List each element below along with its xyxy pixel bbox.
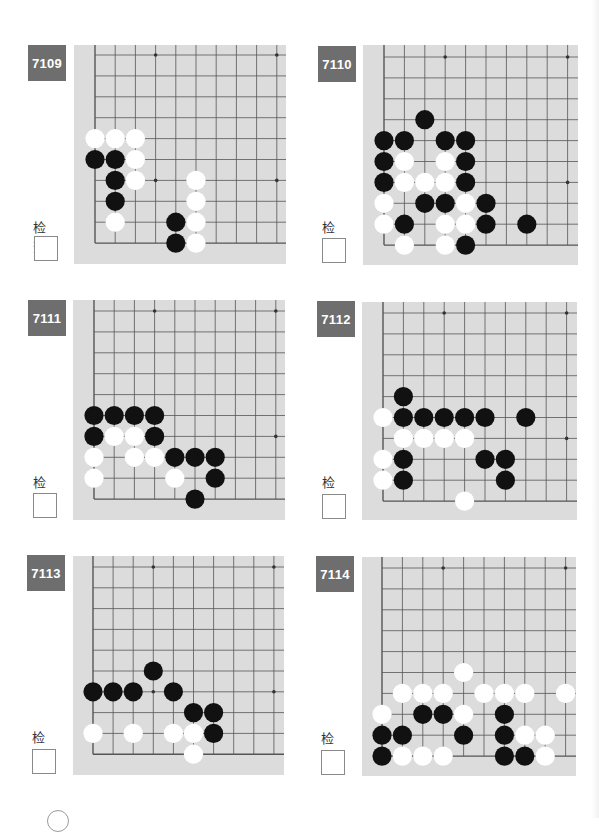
go-board[interactable] xyxy=(73,300,285,520)
white-stone[interactable] xyxy=(186,171,205,190)
black-stone[interactable] xyxy=(106,150,125,169)
black-stone[interactable] xyxy=(164,682,183,701)
white-stone[interactable] xyxy=(105,427,124,446)
white-stone[interactable] xyxy=(164,724,183,743)
black-stone[interactable] xyxy=(204,724,223,743)
white-stone[interactable] xyxy=(372,705,391,724)
check-box[interactable] xyxy=(33,493,57,518)
white-stone[interactable] xyxy=(395,236,414,255)
black-stone[interactable] xyxy=(83,682,102,701)
white-stone[interactable] xyxy=(515,726,534,745)
white-stone[interactable] xyxy=(393,747,412,766)
white-stone[interactable] xyxy=(454,663,473,682)
black-stone[interactable] xyxy=(414,408,433,427)
black-stone[interactable] xyxy=(434,705,453,724)
black-stone[interactable] xyxy=(124,682,143,701)
black-stone[interactable] xyxy=(393,726,412,745)
white-stone[interactable] xyxy=(84,448,103,467)
black-stone[interactable] xyxy=(395,131,414,150)
black-stone[interactable] xyxy=(184,703,203,722)
white-stone[interactable] xyxy=(434,684,453,703)
white-stone[interactable] xyxy=(413,747,432,766)
black-stone[interactable] xyxy=(455,408,474,427)
white-stone[interactable] xyxy=(125,448,144,467)
white-stone[interactable] xyxy=(186,213,205,232)
white-stone[interactable] xyxy=(126,129,145,148)
white-stone[interactable] xyxy=(145,448,164,467)
black-stone[interactable] xyxy=(495,726,514,745)
white-stone[interactable] xyxy=(436,236,455,255)
black-stone[interactable] xyxy=(372,726,391,745)
white-stone[interactable] xyxy=(515,684,534,703)
white-stone[interactable] xyxy=(435,429,454,448)
black-stone[interactable] xyxy=(435,408,454,427)
white-stone[interactable] xyxy=(455,429,474,448)
check-box[interactable] xyxy=(322,238,346,263)
white-stone[interactable] xyxy=(84,469,103,488)
white-stone[interactable] xyxy=(124,724,143,743)
black-stone[interactable] xyxy=(394,450,413,469)
black-stone[interactable] xyxy=(374,152,393,171)
black-stone[interactable] xyxy=(85,150,104,169)
black-stone[interactable] xyxy=(84,406,103,425)
black-stone[interactable] xyxy=(145,406,164,425)
go-board[interactable] xyxy=(362,557,576,776)
black-stone[interactable] xyxy=(436,131,455,150)
white-stone[interactable] xyxy=(413,684,432,703)
black-stone[interactable] xyxy=(106,171,125,190)
black-stone[interactable] xyxy=(105,406,124,425)
white-stone[interactable] xyxy=(393,684,412,703)
white-stone[interactable] xyxy=(456,215,475,234)
black-stone[interactable] xyxy=(204,703,223,722)
check-box[interactable] xyxy=(32,749,56,774)
black-stone[interactable] xyxy=(496,450,515,469)
white-stone[interactable] xyxy=(106,129,125,148)
black-stone[interactable] xyxy=(516,408,535,427)
white-stone[interactable] xyxy=(455,492,474,511)
go-board[interactable] xyxy=(74,45,286,264)
black-stone[interactable] xyxy=(372,747,391,766)
white-stone[interactable] xyxy=(454,705,473,724)
black-stone[interactable] xyxy=(456,131,475,150)
white-stone[interactable] xyxy=(536,726,555,745)
white-stone[interactable] xyxy=(415,173,434,192)
black-stone[interactable] xyxy=(495,747,514,766)
black-stone[interactable] xyxy=(413,705,432,724)
black-stone[interactable] xyxy=(475,450,494,469)
white-stone[interactable] xyxy=(184,745,203,764)
white-stone[interactable] xyxy=(436,173,455,192)
white-stone[interactable] xyxy=(374,215,393,234)
black-stone[interactable] xyxy=(144,661,163,680)
white-stone[interactable] xyxy=(373,408,392,427)
white-stone[interactable] xyxy=(186,192,205,211)
black-stone[interactable] xyxy=(166,234,185,253)
black-stone[interactable] xyxy=(206,469,225,488)
black-stone[interactable] xyxy=(394,408,413,427)
check-box[interactable] xyxy=(321,750,345,775)
black-stone[interactable] xyxy=(395,215,414,234)
black-stone[interactable] xyxy=(495,705,514,724)
black-stone[interactable] xyxy=(436,194,455,213)
black-stone[interactable] xyxy=(125,406,144,425)
white-stone[interactable] xyxy=(536,747,555,766)
black-stone[interactable] xyxy=(456,152,475,171)
go-board[interactable] xyxy=(73,556,284,775)
white-stone[interactable] xyxy=(556,684,575,703)
black-stone[interactable] xyxy=(475,408,494,427)
black-stone[interactable] xyxy=(496,471,515,490)
black-stone[interactable] xyxy=(456,236,475,255)
check-box[interactable] xyxy=(34,236,58,261)
white-stone[interactable] xyxy=(126,150,145,169)
go-board[interactable] xyxy=(363,45,578,265)
black-stone[interactable] xyxy=(517,215,536,234)
white-stone[interactable] xyxy=(374,194,393,213)
check-box[interactable] xyxy=(322,494,346,519)
white-stone[interactable] xyxy=(184,724,203,743)
black-stone[interactable] xyxy=(515,747,534,766)
go-board[interactable] xyxy=(362,302,577,520)
white-stone[interactable] xyxy=(495,684,514,703)
white-stone[interactable] xyxy=(456,194,475,213)
white-stone[interactable] xyxy=(434,747,453,766)
black-stone[interactable] xyxy=(394,471,413,490)
black-stone[interactable] xyxy=(394,387,413,406)
